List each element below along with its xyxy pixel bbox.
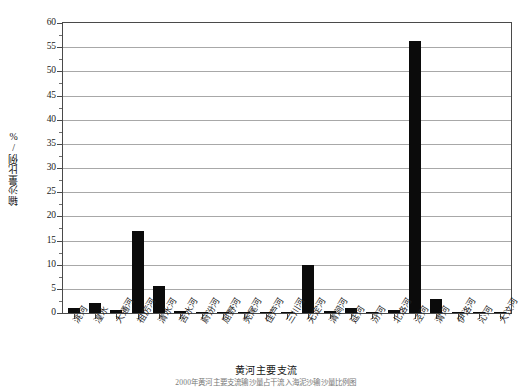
x-tick-label: 大汶河 — [498, 297, 520, 325]
x-tick-label: 伊洛河 — [456, 297, 478, 325]
x-tick-label: 屈野河 — [221, 297, 243, 325]
x-tick-label: 无定河 — [306, 297, 328, 325]
figure-caption: 2000年黄河主要支流输沙量占干流入海泥沙输沙量比例图 — [0, 378, 532, 387]
x-tick-label: 蔚汾河 — [200, 297, 222, 325]
x-tick-label: 秃尾河 — [242, 297, 264, 325]
x-tick-label: 佳芦河 — [264, 297, 286, 325]
x-tick-label: 洮河 — [72, 305, 90, 325]
x-tick-label: 沁河 — [477, 305, 495, 325]
x-tick-label: 清水河 — [157, 297, 179, 325]
x-axis-title: 黄河主要支流 — [0, 362, 532, 377]
x-tick-label: 苦水河 — [178, 297, 200, 325]
x-tick-label: 汾河 — [370, 305, 388, 325]
x-tick-label: 渭河 — [434, 305, 452, 325]
x-tick-label: 大通河 — [114, 297, 136, 325]
x-tick-label: 祖厉河 — [136, 297, 158, 325]
x-tick-label: 泾河 — [413, 305, 431, 325]
x-tick-label: 三川河 — [285, 297, 307, 325]
x-tick-label: 北洛河 — [392, 297, 414, 325]
x-tick-label: 延河 — [349, 305, 367, 325]
x-axis-labels: 洮河湟水大通河祖厉河清水河苦水河蔚汾河屈野河秃尾河佳芦河三川河无定河清涧河延河汾… — [0, 0, 532, 389]
bar-chart-figure: 输沙量比例/% 051015202530354045505560 洮河湟水大通河… — [0, 0, 532, 389]
x-tick-label: 湟水 — [93, 305, 111, 325]
x-tick-label: 清涧河 — [328, 297, 350, 325]
